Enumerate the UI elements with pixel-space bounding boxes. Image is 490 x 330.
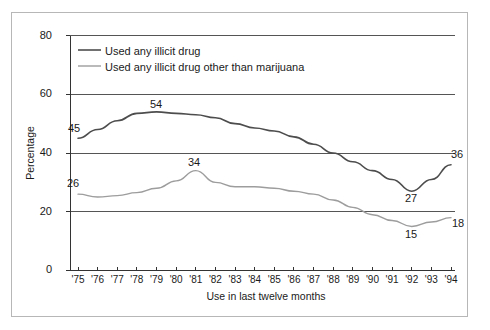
data-label-light-15: 15 xyxy=(400,228,422,240)
data-label-dark-27: 27 xyxy=(400,192,422,204)
data-label-light-26: 26 xyxy=(62,177,84,189)
x-axis-ticks xyxy=(78,267,451,271)
data-label-light-34: 34 xyxy=(183,156,205,168)
data-label-dark-36: 36 xyxy=(446,148,468,160)
chart-figure: 80 60 40 20 0 Percentage '75'76'77'78'79… xyxy=(0,0,490,330)
legend-item-2-label: Used any illicit drug other than marijua… xyxy=(105,61,304,73)
y-axis-title: Percentage xyxy=(24,113,36,193)
data-label-dark-54: 54 xyxy=(145,98,167,110)
data-label-dark-45: 45 xyxy=(63,122,85,134)
data-label-light-18: 18 xyxy=(447,217,469,229)
y-tick-label-60: 60 xyxy=(26,87,52,99)
legend-item-1-label: Used any illicit drug xyxy=(105,45,200,57)
x-axis-title: Use in last twelve months xyxy=(166,290,366,302)
legend-swatches xyxy=(78,50,101,66)
x-tick-label-94: '94 xyxy=(439,274,463,285)
series-lines xyxy=(78,112,451,227)
y-tick-label-80: 80 xyxy=(26,29,52,41)
y-tick-label-0: 0 xyxy=(26,263,52,275)
y-tick-label-20: 20 xyxy=(26,205,52,217)
